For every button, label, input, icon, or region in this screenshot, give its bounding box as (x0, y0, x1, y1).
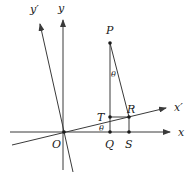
point-Q (108, 130, 112, 134)
theta-at-P: θ (111, 70, 116, 79)
label-S: S (125, 138, 133, 151)
point-S (127, 130, 131, 134)
label-x: x (178, 126, 185, 139)
rotation-diagram: y′ y x′ x P T R O Q S θ θ (0, 0, 195, 176)
label-O: O (52, 138, 61, 151)
x-prime-axis (12, 108, 166, 145)
label-P: P (105, 24, 114, 37)
label-Q: Q (105, 138, 114, 151)
label-y-prime: y′ (29, 3, 39, 16)
point-O (62, 130, 66, 134)
label-y: y (57, 2, 65, 15)
label-R: R (126, 103, 135, 116)
point-T (108, 115, 112, 119)
label-T: T (97, 111, 106, 124)
point-P (108, 41, 112, 45)
theta-at-O: θ (99, 124, 104, 133)
label-x-prime: x′ (174, 101, 183, 114)
